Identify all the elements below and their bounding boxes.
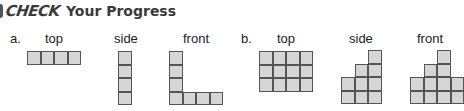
grid-cell <box>437 91 451 105</box>
grid-cell <box>451 77 464 91</box>
grid-cell <box>368 91 382 105</box>
grid-cell <box>437 50 451 64</box>
problem-b-front-label: front <box>417 31 443 46</box>
grid-cell <box>424 64 438 78</box>
grid-cell <box>169 51 183 65</box>
grid-cell <box>300 65 314 79</box>
grid-cell <box>300 51 314 65</box>
grid-cell <box>169 92 183 106</box>
check-word: CHECK <box>5 2 61 20</box>
grid-cell <box>341 77 355 91</box>
grid-cell <box>355 91 369 105</box>
section-title: Your Progress <box>66 3 176 19</box>
check-your-progress-header: CHECK Your Progress <box>0 0 176 22</box>
grid-cell <box>368 64 382 78</box>
grid-cell <box>41 51 55 65</box>
grid-cell <box>437 77 451 91</box>
grid-cell <box>410 77 424 91</box>
grid-cell <box>54 51 68 65</box>
grid-cell <box>355 64 369 78</box>
grid-cell <box>169 65 183 79</box>
grid-cell <box>27 51 41 65</box>
grid-cell <box>300 78 314 92</box>
grid-cell <box>259 65 273 79</box>
problem-b-side-label: side <box>349 31 373 46</box>
grid-cell <box>273 78 287 92</box>
grid-cell <box>355 77 369 91</box>
grid-cell <box>259 51 273 65</box>
grid-cell <box>341 91 355 105</box>
grid-cell <box>273 65 287 79</box>
problem-b-label: b. <box>241 31 252 46</box>
grid-cell <box>368 50 382 64</box>
grid-cell <box>169 78 183 92</box>
grid-cell <box>118 92 132 106</box>
grid-cell <box>368 77 382 91</box>
grid-cell <box>437 64 451 78</box>
problem-a-top-label: top <box>45 31 63 46</box>
problem-a-front-label: front <box>183 31 209 46</box>
problem-a-label: a. <box>10 31 21 46</box>
problem-b-top-label: top <box>277 31 295 46</box>
grid-cell <box>424 77 438 91</box>
grid-cell <box>210 92 224 106</box>
logo-fragment-icon <box>0 4 3 18</box>
grid-cell <box>286 51 300 65</box>
grid-cell <box>118 65 132 79</box>
grid-cell <box>286 65 300 79</box>
grid-cell <box>259 78 273 92</box>
grid-cell <box>286 78 300 92</box>
grid-cell <box>68 51 82 65</box>
grid-cell <box>118 78 132 92</box>
grid-cell <box>196 92 210 106</box>
grid-cell <box>183 92 197 106</box>
grid-cell <box>273 51 287 65</box>
grid-cell <box>410 91 424 105</box>
problem-a-side-label: side <box>114 31 138 46</box>
grid-cell <box>424 91 438 105</box>
grid-cell <box>451 91 464 105</box>
grid-cell <box>118 51 132 65</box>
